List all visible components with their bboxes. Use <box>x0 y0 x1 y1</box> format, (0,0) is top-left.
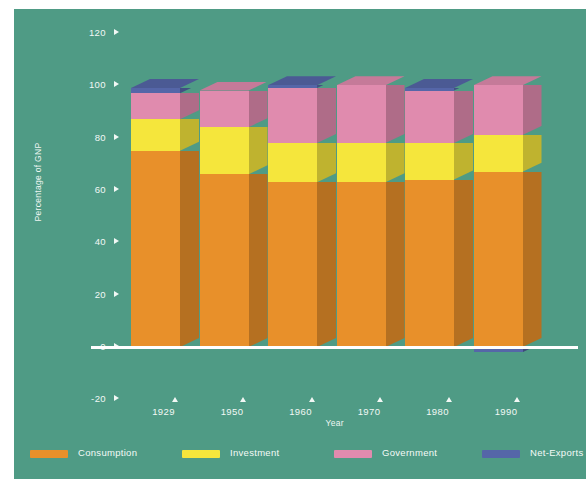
x-tick-label-1950: 1950 <box>202 406 262 417</box>
bar-segment-side <box>523 135 542 172</box>
bar-segment-face <box>474 85 523 135</box>
x-tick-marker-icon <box>377 397 383 402</box>
legend-label: Government <box>382 447 437 458</box>
x-tick-label-1990: 1990 <box>476 406 536 417</box>
bar-top-cap-1990 <box>474 76 542 85</box>
x-axis-label: Year <box>305 418 365 428</box>
legend-swatch-consumption <box>30 450 68 458</box>
x-tick-label-1980: 1980 <box>408 406 468 417</box>
chart-legend: ConsumptionInvestmentGovernmentNet-Expor… <box>14 447 586 469</box>
x-tick-label-1960: 1960 <box>271 406 331 417</box>
zero-line <box>91 346 578 349</box>
x-tick-marker-icon <box>514 397 520 402</box>
plot-area: Percentage of GNP 120100806040200-20 192… <box>14 9 586 479</box>
bar-segment-1990-consumption <box>474 172 523 347</box>
legend-label: Investment <box>230 447 279 458</box>
x-tick-marker-icon <box>172 397 178 402</box>
bar-segment-face <box>474 172 523 347</box>
bar-segment-1990-government <box>474 85 523 135</box>
legend-label: Consumption <box>78 447 137 458</box>
bar-segment-face <box>474 135 523 172</box>
bar-segment-side <box>523 172 542 347</box>
x-tick-label-1929: 1929 <box>134 406 194 417</box>
bar-segment-side <box>523 85 542 135</box>
bar-segment-1990-investment <box>474 135 523 172</box>
legend-swatch-net-exports <box>482 450 520 458</box>
legend-swatch-investment <box>182 450 220 458</box>
x-tick-label-1970: 1970 <box>339 406 399 417</box>
chart-figure: Percentage of GNP 120100806040200-20 192… <box>14 9 586 479</box>
legend-label: Net-Exports <box>530 447 583 458</box>
x-tick-marker-icon <box>309 397 315 402</box>
x-tick-marker-icon <box>446 397 452 402</box>
x-tick-marker-icon <box>240 397 246 402</box>
legend-swatch-government <box>334 450 372 458</box>
